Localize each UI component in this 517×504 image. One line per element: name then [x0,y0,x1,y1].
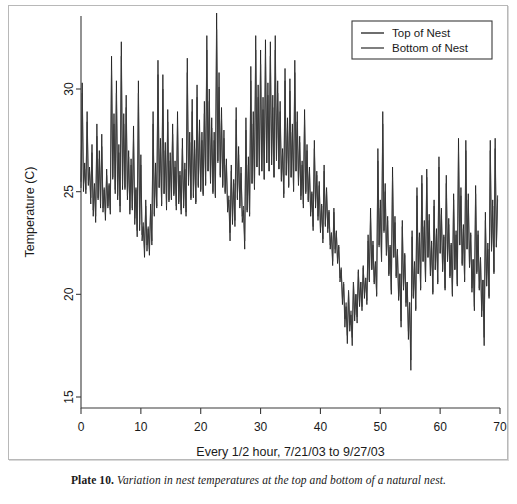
x-tick-label: 70 [493,420,507,434]
x-tick-label: 50 [374,420,388,434]
x-tick-label: 30 [254,420,268,434]
x-axis-title: Every 1/2 hour, 7/21/03 to 9/27/03 [196,445,384,459]
x-tick-label: 0 [78,420,85,434]
y-tick-label: 25 [62,185,76,199]
legend-label-bottom-of-nest: Bottom of Nest [392,42,469,54]
y-tick-label: 30 [62,82,76,96]
x-tick-label: 20 [194,420,208,434]
series-line-top-of-nest [81,13,498,370]
x-tick-label: 60 [433,420,447,434]
temperature-chart: 15202530010203040506070Every 1/2 hour, 7… [0,0,517,465]
x-tick-label: 40 [314,420,328,434]
axis-lines [81,16,500,408]
series-line-bottom-of-nest [81,29,498,360]
caption-plate-number: Plate 10. [71,474,114,486]
y-axis-title: Temperature (C) [23,167,37,258]
y-tick-label: 15 [62,390,76,404]
x-tick-label: 10 [134,420,148,434]
figure-caption: Plate 10. Variation in nest temperatures… [0,474,517,486]
legend-label-top-of-nest: Top of Nest [392,27,451,39]
caption-text: Variation in nest temperatures at the to… [117,474,446,486]
y-tick-label: 20 [62,287,76,301]
figure-container: 15202530010203040506070Every 1/2 hour, 7… [0,0,517,465]
